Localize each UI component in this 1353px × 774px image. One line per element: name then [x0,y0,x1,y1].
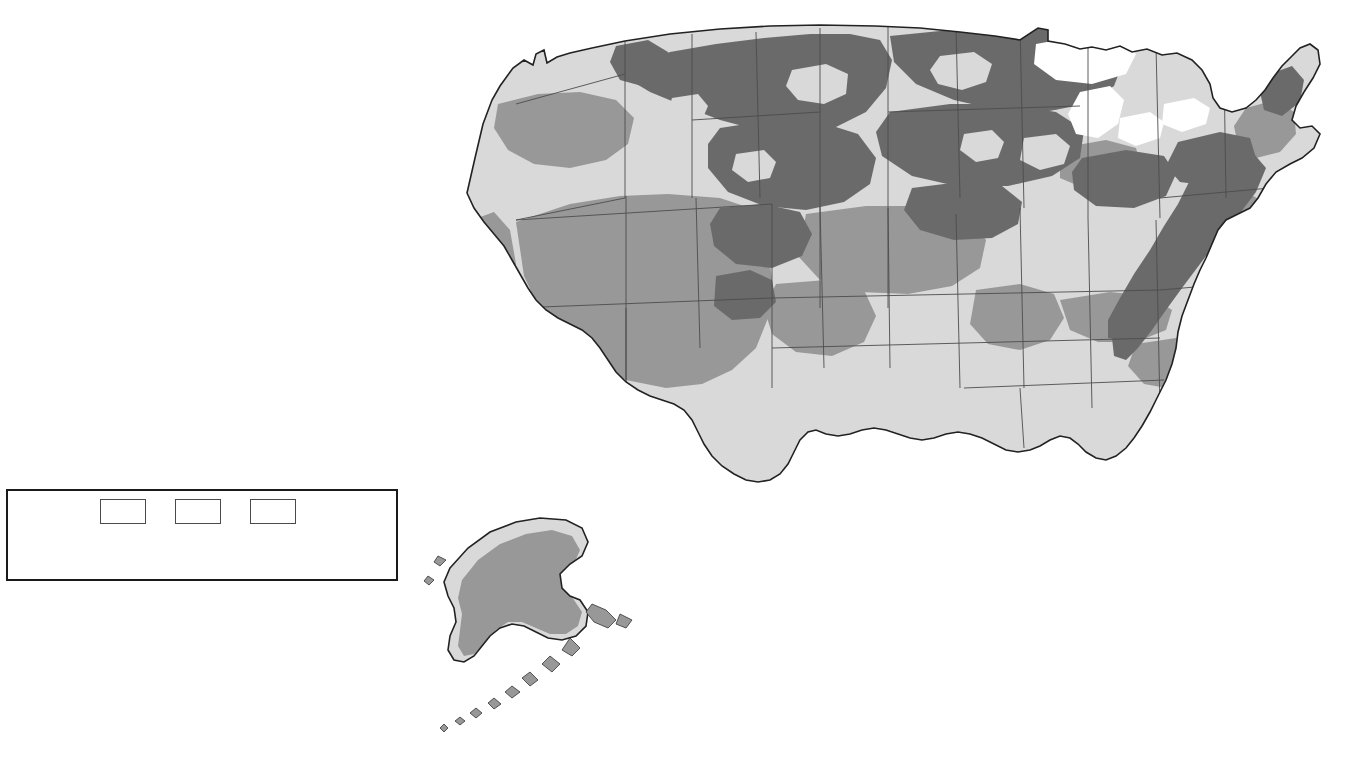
legend-item-moderate [175,499,250,524]
legend-item-high [250,499,305,524]
map-svg [420,8,1350,748]
legend-swatch-high [250,499,296,524]
legend-swatch-moderate [175,499,221,524]
map-inset-alaska [420,498,680,732]
radon-potential-map [420,8,1350,748]
caption-line-clipped [8,0,418,14]
legend-swatch-low [100,499,146,524]
map-low-regions [420,8,1350,508]
map-contiguous-us [420,8,1350,508]
map-legend [6,489,398,581]
legend-item-low [100,499,175,524]
figure-caption [8,0,418,14]
legend-items [8,499,396,524]
